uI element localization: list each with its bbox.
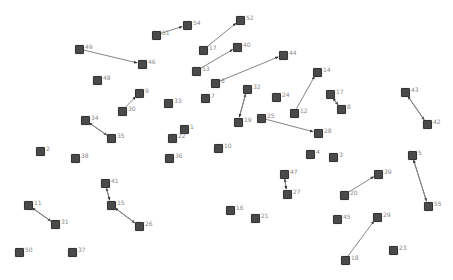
node-square-icon[interactable]: [135, 222, 144, 231]
node-square-icon[interactable]: [152, 31, 161, 40]
node-square-icon[interactable]: [192, 67, 201, 76]
node-label: 4: [316, 148, 320, 156]
node-square-icon[interactable]: [423, 120, 432, 129]
node-label: 25: [267, 112, 275, 120]
node-square-icon[interactable]: [214, 144, 223, 153]
node-square-icon[interactable]: [24, 201, 33, 210]
node-square-icon[interactable]: [233, 43, 242, 52]
node-square-icon[interactable]: [234, 118, 243, 127]
node-label: 15: [117, 199, 125, 207]
node-square-icon[interactable]: [374, 170, 383, 179]
node-label: 41: [111, 177, 119, 185]
node-square-icon[interactable]: [337, 105, 346, 114]
node-square-icon[interactable]: [199, 46, 208, 55]
node-square-icon[interactable]: [164, 99, 173, 108]
node-square-icon[interactable]: [71, 154, 80, 163]
node-square-icon[interactable]: [135, 89, 144, 98]
node-square-icon[interactable]: [107, 201, 116, 210]
node-label: 9: [145, 87, 149, 95]
node-label: 55: [434, 200, 442, 208]
node-label: 46: [148, 58, 156, 66]
node-square-icon[interactable]: [329, 153, 338, 162]
node-square-icon[interactable]: [251, 214, 260, 223]
graph-edge: [239, 94, 245, 117]
node-square-icon[interactable]: [272, 93, 281, 102]
node-square-icon[interactable]: [243, 85, 252, 94]
node-square-icon[interactable]: [424, 202, 433, 211]
node-square-icon[interactable]: [168, 134, 177, 143]
node-square-icon[interactable]: [51, 220, 60, 229]
node-label: 29: [383, 211, 391, 219]
node-square-icon[interactable]: [314, 129, 323, 138]
node-label: 32: [253, 83, 261, 91]
node-label: 53: [202, 65, 210, 73]
node-label: 35: [117, 132, 125, 140]
node-label: 42: [433, 118, 441, 126]
node-square-icon[interactable]: [401, 88, 410, 97]
graph-edge: [266, 119, 313, 131]
node-square-icon[interactable]: [211, 79, 220, 88]
graph-edge: [89, 123, 107, 135]
node-square-icon[interactable]: [165, 154, 174, 163]
node-label: 44: [289, 49, 297, 57]
node-label: 19: [244, 116, 252, 124]
node-label: 24: [282, 91, 290, 99]
graph-edge: [115, 208, 135, 223]
node-square-icon[interactable]: [313, 68, 322, 77]
node-label: 34: [91, 114, 99, 122]
node-label: 17: [336, 88, 344, 96]
node-square-icon[interactable]: [183, 21, 192, 30]
node-square-icon[interactable]: [306, 150, 315, 159]
node-label: 38: [81, 152, 89, 160]
node-square-icon[interactable]: [326, 90, 335, 99]
node-square-icon[interactable]: [279, 51, 288, 60]
node-square-icon[interactable]: [257, 114, 266, 123]
node-label: 54: [193, 19, 201, 27]
node-square-icon[interactable]: [75, 45, 84, 54]
node-label: 7: [211, 92, 215, 100]
node-square-icon[interactable]: [283, 190, 292, 199]
node-square-icon[interactable]: [341, 256, 350, 265]
node-square-icon[interactable]: [138, 60, 147, 69]
node-square-icon[interactable]: [201, 94, 210, 103]
node-label: 23: [399, 244, 407, 252]
node-square-icon[interactable]: [333, 215, 342, 224]
node-label: 50: [25, 246, 33, 254]
node-square-icon[interactable]: [389, 246, 398, 255]
node-square-icon[interactable]: [408, 151, 417, 160]
node-label: 1: [190, 123, 194, 131]
node-square-icon[interactable]: [373, 213, 382, 222]
node-label: 6: [221, 77, 225, 85]
node-label: 17: [209, 44, 217, 52]
node-square-icon[interactable]: [290, 109, 299, 118]
node-square-icon[interactable]: [81, 116, 90, 125]
node-label: 14: [323, 66, 331, 74]
node-square-icon[interactable]: [107, 134, 116, 143]
graph-edge: [220, 57, 279, 81]
node-square-icon[interactable]: [15, 248, 24, 257]
node-square-icon[interactable]: [101, 179, 110, 188]
node-square-icon[interactable]: [226, 206, 235, 215]
node-square-icon[interactable]: [68, 248, 77, 257]
node-label: 5: [418, 149, 422, 157]
graph-edge: [333, 98, 338, 105]
graph-canvas[interactable]: 4946485154521740534469303373224141781243…: [0, 0, 453, 280]
node-label: 22: [178, 132, 186, 140]
node-square-icon[interactable]: [36, 147, 45, 156]
node-label: 43: [411, 86, 419, 94]
node-square-icon[interactable]: [93, 76, 102, 85]
edges-layer: [0, 0, 453, 280]
node-square-icon[interactable]: [118, 107, 127, 116]
node-square-icon[interactable]: [340, 191, 349, 200]
node-label: 52: [246, 14, 254, 22]
node-label: 12: [300, 107, 308, 115]
node-square-icon[interactable]: [280, 170, 289, 179]
node-label: 40: [243, 41, 251, 49]
graph-edge: [32, 208, 51, 221]
node-label: 21: [261, 212, 269, 220]
node-label: 47: [290, 168, 298, 176]
node-label: 37: [78, 246, 86, 254]
node-label: 45: [343, 213, 351, 221]
node-label: 49: [85, 43, 93, 51]
node-square-icon[interactable]: [236, 16, 245, 25]
